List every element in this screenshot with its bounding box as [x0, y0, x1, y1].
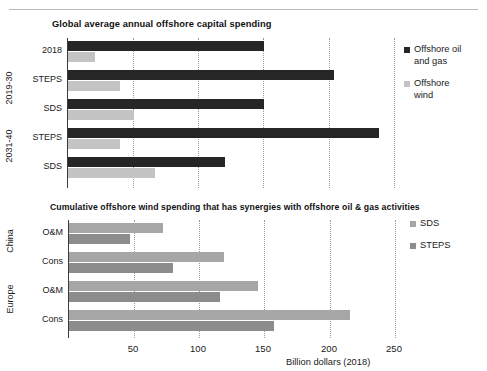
- gridline-250: [394, 38, 395, 188]
- cat-label-europe-cons: Cons: [16, 314, 63, 324]
- cat-label-2018: 2018: [14, 45, 62, 55]
- bar-sds-europe-cons: [69, 310, 350, 320]
- x-axis-title: Billion dollars (2018): [286, 357, 370, 367]
- legend-swatch-icon-steps: [410, 243, 416, 249]
- cat-label-europe-om: O&M: [16, 285, 63, 295]
- group-label-2031-40: 2031-40: [4, 121, 14, 171]
- legend-item-steps[interactable]: STEPS: [410, 240, 480, 252]
- bar-sds-china-om: [69, 223, 163, 233]
- bar-oil-2019-30-steps: [68, 70, 334, 80]
- legend-swatch-icon-wind: [404, 81, 410, 87]
- bar-sds-europe-om: [69, 281, 258, 291]
- legend-top: Offshore oil and gas Offshore wind: [404, 44, 487, 124]
- xtick-label-50: 50: [113, 343, 153, 354]
- plot-area-top: [67, 38, 400, 188]
- bar-oil-2031-40-sds: [68, 157, 225, 167]
- gridline-250: [395, 220, 396, 338]
- figure-root: Global average annual offshore capital s…: [0, 0, 487, 371]
- bar-oil-2031-40-steps: [68, 128, 379, 138]
- legend-item-sds[interactable]: SDS: [410, 218, 480, 230]
- bar-wind-2019-30-sds: [68, 110, 134, 120]
- legend-label-steps: STEPS: [420, 240, 450, 252]
- group-label-europe: Europe: [5, 274, 15, 324]
- chart-title-top: Global average annual offshore capital s…: [52, 19, 272, 29]
- bar-steps-europe-cons: [69, 321, 274, 331]
- bar-oil-2018: [68, 41, 264, 51]
- group-label-2019-30: 2019-30: [4, 63, 14, 113]
- legend-label-oil: Offshore oil and gas: [414, 44, 461, 67]
- bar-oil-2019-30-sds: [68, 99, 264, 109]
- legend-label-wind: Offshore wind: [414, 78, 450, 101]
- xtick-label-100: 100: [178, 343, 218, 354]
- cat-label-china-cons: Cons: [16, 256, 63, 266]
- legend-item-offshore-wind[interactable]: Offshore wind: [404, 78, 487, 101]
- bar-steps-china-om: [69, 234, 130, 244]
- chart-panel-capital-spending: Global average annual offshore capital s…: [0, 14, 487, 204]
- cat-label-2019-30-sds: SDS: [14, 103, 62, 113]
- xtick-label-200: 200: [309, 343, 349, 354]
- group-label-china: China: [5, 216, 15, 266]
- cat-label-china-om: O&M: [16, 227, 63, 237]
- header-divider: [9, 9, 478, 10]
- gridline-200: [330, 220, 331, 338]
- xtick-label-250: 250: [374, 343, 414, 354]
- chart-title-bottom: Cumulative offshore wind spending that h…: [50, 202, 420, 212]
- bar-steps-china-cons: [69, 263, 173, 273]
- cat-label-2031-40-steps: STEPS: [14, 132, 62, 142]
- legend-swatch-icon-sds: [410, 221, 416, 227]
- chart-panel-wind-synergies: Cumulative offshore wind spending that h…: [0, 198, 487, 371]
- bar-steps-europe-om: [69, 292, 220, 302]
- cat-label-2019-30-steps: STEPS: [14, 74, 62, 84]
- gridline-150: [263, 38, 264, 188]
- bar-sds-china-cons: [69, 252, 224, 262]
- legend-item-offshore-oil-and-gas[interactable]: Offshore oil and gas: [404, 44, 487, 67]
- bar-wind-2031-40-sds: [68, 168, 155, 178]
- gridline-200: [329, 38, 330, 188]
- plot-area-bottom: [68, 220, 400, 338]
- bar-wind-2019-30-steps: [68, 81, 120, 91]
- legend-label-sds: SDS: [420, 218, 439, 230]
- legend-bottom: SDS STEPS: [410, 218, 480, 268]
- bar-wind-2018: [68, 52, 95, 62]
- xtick-label-150: 150: [243, 343, 283, 354]
- legend-swatch-icon-oil: [404, 47, 410, 53]
- cat-label-2031-40-sds: SDS: [14, 161, 62, 171]
- bar-wind-2031-40-steps: [68, 139, 120, 149]
